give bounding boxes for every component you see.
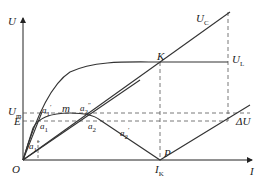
ik-label: IK: [155, 164, 164, 178]
ul-label: UL: [232, 54, 244, 68]
a1-dblprime-label: a1″: [29, 140, 40, 154]
a1-label: a1: [40, 122, 48, 134]
a2-dblprime-label: a2″: [80, 102, 91, 116]
y-axis-label: U: [8, 16, 16, 27]
origin-label: O: [12, 164, 20, 175]
volt-ampere-diagram: U I O UC UL ΔU Um E K P IK m a1′ a1 a1″ …: [0, 0, 263, 182]
diagram-canvas: [0, 0, 263, 182]
p-point-label: P: [164, 148, 171, 159]
du-label: ΔU: [236, 116, 250, 127]
e-label: E: [14, 116, 21, 127]
a1-prime-label: a1′: [42, 104, 52, 118]
a2-label: a2: [88, 122, 96, 134]
a2-prime-label: a2′: [120, 127, 130, 141]
x-axis-label: I: [250, 166, 254, 177]
m-point-label: m: [62, 103, 70, 114]
k-point-label: K: [157, 51, 164, 62]
ul-curve: [23, 62, 228, 160]
uc-label: UC: [196, 13, 209, 27]
